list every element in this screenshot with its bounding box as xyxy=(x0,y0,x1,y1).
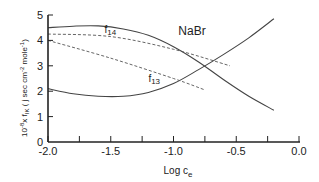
y-tick-label: 2 xyxy=(37,85,43,97)
series-line xyxy=(48,26,274,111)
y-tick-label: 3 xyxy=(37,60,43,72)
y-tick-label: 4 xyxy=(37,34,43,46)
curve-labels: f14f13 xyxy=(104,24,160,87)
curve-label: f13 xyxy=(148,73,160,86)
chart-title: NaBr xyxy=(178,24,205,38)
series-line xyxy=(48,40,205,90)
y-tick-label: 5 xyxy=(37,9,43,21)
plot-lines xyxy=(48,19,274,110)
x-tick-label: -0.5 xyxy=(227,145,246,157)
axes: -2.0-1.5-1.0-0.50.0012345 xyxy=(37,9,307,157)
y-tick-label: 0 xyxy=(37,136,43,148)
curve-label: f14 xyxy=(104,24,116,37)
chart: -2.0-1.5-1.0-0.50.0012345 NaBr Log ce 10… xyxy=(0,0,319,182)
x-tick-label: 0.0 xyxy=(291,145,306,157)
series-line xyxy=(48,19,274,97)
y-tick-label: 1 xyxy=(37,111,43,123)
x-tick-label: -1.5 xyxy=(101,145,120,157)
series-line xyxy=(48,34,230,66)
x-tick-label: -1.0 xyxy=(164,145,183,157)
y-axis-label: 10-8x fIK ( j sec cm-2 mole-1) xyxy=(19,39,30,137)
x-axis-label: Log ce xyxy=(164,165,193,179)
